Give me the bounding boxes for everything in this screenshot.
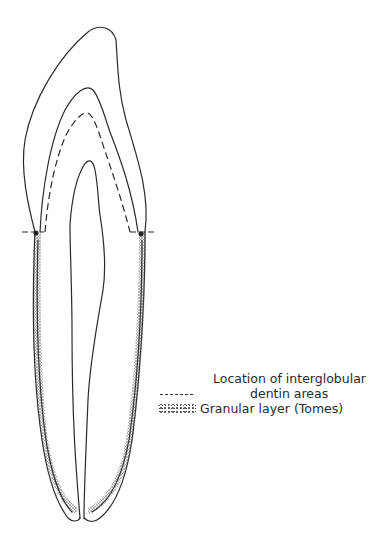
interglobular-dentin-line — [45, 113, 130, 232]
legend-label: dentin areas — [250, 386, 328, 401]
legend: Location of interglobular dentin areas G… — [155, 371, 372, 416]
granular-layer-right — [88, 232, 146, 514]
cej-dot-right — [139, 232, 144, 237]
dashed-line-icon — [160, 394, 193, 395]
pulp-canal — [70, 161, 104, 518]
legend-item-interglobular: Location of interglobular — [155, 371, 372, 386]
legend-label: Granular layer (Tomes) — [200, 401, 343, 416]
legend-item-granular: Granular layer (Tomes) — [155, 401, 372, 416]
legend-label: Location of interglobular — [213, 371, 366, 386]
cej-dot-left — [34, 231, 39, 236]
tooth-section-diagram — [0, 0, 372, 545]
legend-item-interglobular-cont: dentin areas — [155, 386, 372, 401]
stippled-texture-icon — [158, 404, 196, 413]
